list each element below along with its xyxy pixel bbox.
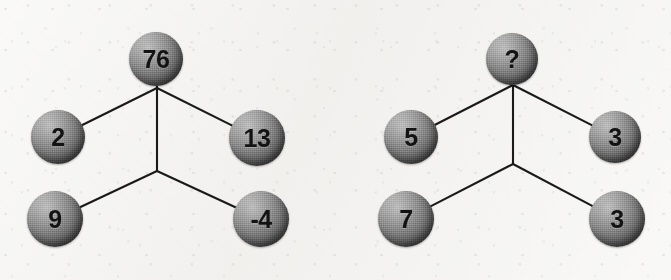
node-value-label: 3 [610, 207, 623, 232]
node-value-label: 13 [244, 126, 271, 151]
connector-line [81, 88, 157, 125]
node-value-label: 9 [48, 207, 61, 232]
node-right-upper-left: 5 [384, 110, 438, 164]
node-left-top: 76 [129, 32, 183, 86]
node-value-label: 76 [143, 47, 170, 72]
connector-lines [0, 0, 671, 280]
node-left-upper-right: 13 [229, 110, 285, 166]
connector-line [79, 171, 157, 208]
node-left-lower-right: -4 [233, 191, 289, 247]
node-value-label: 5 [404, 125, 417, 150]
node-right-top: ? [486, 33, 538, 85]
node-value-label: 2 [51, 125, 64, 150]
node-value-label: ? [505, 47, 520, 72]
connector-line [513, 164, 593, 206]
node-left-lower-left: 9 [27, 191, 83, 247]
connector-line [157, 88, 233, 126]
node-value-label: 3 [608, 125, 621, 150]
connector-line [434, 85, 513, 125]
puzzle-page: 762139-4?5373 [0, 0, 671, 280]
connector-line [430, 164, 513, 207]
node-left-upper-left: 2 [31, 110, 85, 164]
node-value-label: 7 [399, 207, 412, 232]
connector-line [513, 85, 593, 126]
diagram-layer: 762139-4?5373 [0, 0, 671, 280]
node-right-lower-left: 7 [378, 191, 434, 247]
connector-line [157, 171, 236, 208]
node-value-label: -4 [250, 207, 271, 232]
node-right-lower-right: 3 [589, 191, 645, 247]
node-right-upper-right: 3 [589, 111, 641, 163]
